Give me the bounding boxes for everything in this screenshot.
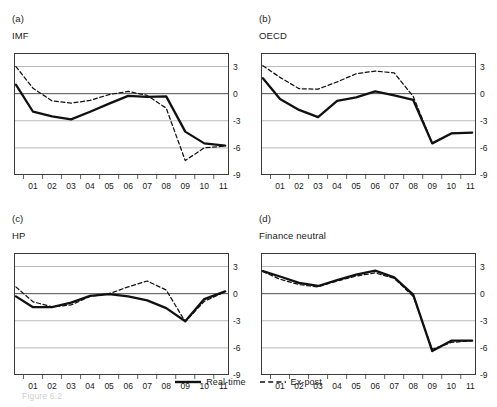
series-ex-post <box>263 66 472 144</box>
y-tick-label: 0 <box>480 289 485 299</box>
y-tick-label: 3 <box>233 62 238 72</box>
y-tick-label: 3 <box>480 62 485 72</box>
series-real-time <box>263 78 472 143</box>
x-tick-label: 03 <box>313 181 323 191</box>
panel-a-title: IMF <box>12 30 29 41</box>
x-tick-label: 08 <box>408 181 418 191</box>
x-tick-label: 10 <box>447 181 457 191</box>
panel-c: (c) HP 010203040506070809101130-3-6-9 <box>0 200 248 400</box>
y-tick-label: -6 <box>233 143 241 153</box>
x-tick-label: 06 <box>123 181 133 191</box>
legend-swatch-dashed <box>260 378 286 386</box>
x-tick-label: 01 <box>275 181 285 191</box>
panel-b-index: (b) <box>259 13 271 24</box>
panel-c-title: HP <box>12 230 25 241</box>
y-tick-label: 0 <box>480 89 485 99</box>
y-tick-label: -3 <box>480 116 488 126</box>
x-tick-label: 07 <box>389 181 399 191</box>
panel-a-plot: 010203040506070809101130-3-6-9 <box>14 53 229 175</box>
legend-label-real-time: Real-time <box>206 377 245 387</box>
plot-frame <box>15 254 229 375</box>
legend-swatch-solid <box>175 378 201 386</box>
figure-legend: Real-time Ex-post <box>0 374 497 390</box>
legend-item-ex-post: Ex-post <box>260 377 322 387</box>
y-tick-label: -6 <box>480 343 488 353</box>
panel-c-index: (c) <box>12 213 23 224</box>
series-ex-post <box>263 272 472 350</box>
panel-a-index: (a) <box>12 13 24 24</box>
y-tick-label: 0 <box>233 289 238 299</box>
panel-a: (a) IMF 010203040506070809101130-3-6-9 <box>0 0 248 200</box>
legend-item-real-time: Real-time <box>175 377 245 387</box>
panel-d: (d) Finance neutral 01020304050607080910… <box>247 200 495 400</box>
y-tick-label: 3 <box>233 262 238 272</box>
x-tick-label: 05 <box>351 181 361 191</box>
panel-b-title: OECD <box>259 30 287 41</box>
y-tick-label: 3 <box>480 262 485 272</box>
x-tick-label: 05 <box>104 181 114 191</box>
x-tick-label: 03 <box>66 181 76 191</box>
x-tick-label: 08 <box>161 181 171 191</box>
panel-b: (b) OECD 010203040506070809101130-3-6-9 <box>247 0 495 200</box>
series-ex-post <box>16 67 225 161</box>
legend-label-ex-post: Ex-post <box>291 377 322 387</box>
series-ex-post <box>16 281 225 322</box>
x-tick-label: 07 <box>142 181 152 191</box>
x-tick-label: 09 <box>428 181 438 191</box>
x-tick-label: 04 <box>85 181 95 191</box>
x-tick-label: 11 <box>219 181 228 191</box>
y-tick-label: -3 <box>233 316 241 326</box>
x-tick-label: 11 <box>466 181 475 191</box>
panel-c-plot: 010203040506070809101130-3-6-9 <box>14 253 229 375</box>
x-tick-label: 01 <box>28 181 38 191</box>
panel-d-index: (d) <box>259 213 271 224</box>
y-tick-label: -6 <box>480 143 488 153</box>
panel-d-title: Finance neutral <box>259 230 326 241</box>
panel-b-plot: 010203040506070809101130-3-6-9 <box>261 53 476 175</box>
series-real-time <box>16 291 225 321</box>
y-tick-label: -9 <box>480 170 488 180</box>
x-tick-label: 10 <box>200 181 210 191</box>
y-tick-label: 0 <box>233 89 238 99</box>
x-tick-label: 06 <box>370 181 380 191</box>
y-tick-label: -9 <box>233 170 241 180</box>
figure-container: (a) IMF 010203040506070809101130-3-6-9 (… <box>0 0 497 407</box>
figure-caption: Figure 6.2 <box>22 391 62 401</box>
panel-d-plot: 010203040506070809101130-3-6-9 <box>261 253 476 375</box>
x-tick-label: 02 <box>294 181 304 191</box>
x-tick-label: 04 <box>332 181 342 191</box>
y-tick-label: -3 <box>480 316 488 326</box>
y-tick-label: -3 <box>233 116 241 126</box>
y-tick-label: -6 <box>233 343 241 353</box>
x-tick-label: 09 <box>181 181 191 191</box>
x-tick-label: 02 <box>47 181 57 191</box>
